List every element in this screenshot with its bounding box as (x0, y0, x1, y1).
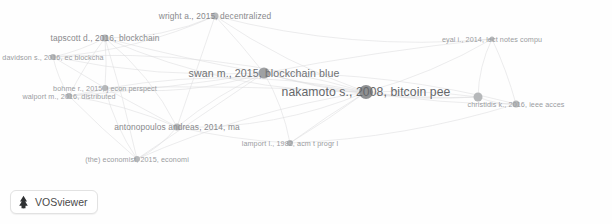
network-edge (177, 73, 264, 127)
network-node[interactable] (102, 85, 108, 91)
network-node[interactable] (474, 93, 483, 102)
network-edge (105, 38, 137, 159)
network-edge (53, 57, 264, 74)
network-node[interactable] (174, 124, 181, 131)
network-node[interactable] (359, 85, 373, 99)
edge-layer (53, 16, 516, 159)
network-edge (53, 57, 69, 96)
network-edge (478, 97, 516, 104)
vosviewer-logo-label: VOSviewer (35, 197, 88, 208)
vosviewer-network-map[interactable]: wright a., 2015, decentralizedtapscott d… (0, 0, 612, 224)
network-node[interactable] (134, 156, 140, 162)
network-node[interactable] (50, 54, 56, 60)
network-node[interactable] (212, 13, 219, 20)
network-edge (290, 92, 366, 143)
network-edge (69, 96, 137, 159)
network-edge (366, 39, 492, 92)
network-edge (105, 73, 264, 91)
network-node[interactable] (102, 35, 109, 42)
network-edge (53, 57, 105, 88)
network-edge (105, 38, 366, 92)
network-edge (290, 104, 516, 143)
network-edge (105, 88, 137, 159)
network-edge (53, 16, 215, 57)
vosviewer-tree-icon (17, 195, 30, 209)
network-edge (137, 92, 366, 159)
network-edge (492, 39, 516, 104)
network-edge (177, 127, 290, 143)
network-edge (69, 38, 105, 96)
network-edge (105, 38, 177, 127)
network-edge (137, 127, 177, 159)
network-edge (264, 39, 492, 73)
network-node[interactable] (513, 101, 520, 108)
network-node[interactable] (490, 37, 495, 42)
network-node[interactable] (66, 93, 72, 99)
network-edge (105, 38, 106, 88)
network-edge (290, 92, 366, 143)
network-edge (105, 16, 215, 38)
network-edge (215, 16, 492, 42)
network-edge (478, 39, 492, 97)
vosviewer-logo-badge[interactable]: VOSviewer (10, 190, 98, 214)
network-node[interactable] (287, 140, 293, 146)
network-node[interactable] (259, 68, 270, 79)
